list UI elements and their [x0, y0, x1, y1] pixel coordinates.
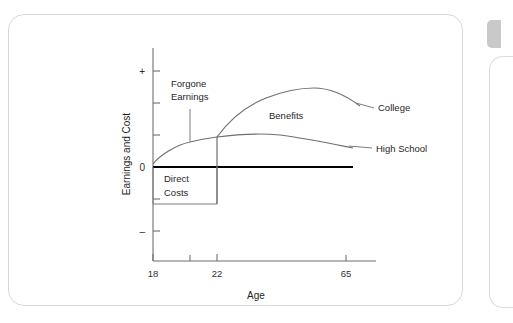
chart-canvas: + 0 – 18 22 65 Earnings and Cost Age For… [8, 14, 463, 306]
y-axis-plus-label: + [139, 66, 145, 77]
side-tab-handle[interactable] [487, 20, 501, 48]
high-school-curve [153, 134, 353, 164]
y-axis-zero-label: 0 [139, 162, 145, 173]
direct-costs-label-line1: Direct [164, 173, 189, 184]
forgone-earnings-label-line2: Earnings [171, 91, 209, 102]
direct-costs-label-line2: Costs [164, 187, 189, 198]
earnings-and-cost-chart: + 0 – 18 22 65 Earnings and Cost Age For… [8, 14, 463, 306]
x-axis-title: Age [247, 290, 265, 301]
series-label-college: College [378, 102, 410, 113]
side-panel-edge [489, 56, 513, 308]
x-axis-tick-label-22: 22 [212, 268, 223, 279]
y-axis-title: Earnings and Cost [121, 113, 132, 195]
benefits-label: Benefits [269, 110, 304, 121]
series-label-high-school: High School [376, 143, 427, 154]
x-axis-tick-label-65: 65 [341, 268, 352, 279]
forgone-earnings-label-line1: Forgone [171, 78, 206, 89]
y-axis-minus-label: – [139, 226, 145, 237]
x-axis-tick-label-18: 18 [148, 268, 159, 279]
